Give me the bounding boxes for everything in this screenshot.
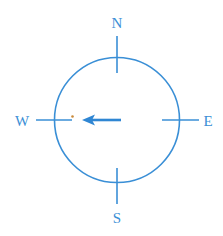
marker-dot bbox=[71, 115, 74, 118]
label-south: S bbox=[113, 210, 121, 226]
label-west: W bbox=[15, 113, 30, 129]
direction-arrow bbox=[82, 115, 121, 126]
compass-diagram: N S W E bbox=[0, 0, 223, 236]
label-east: E bbox=[203, 113, 212, 129]
label-north: N bbox=[112, 15, 123, 31]
